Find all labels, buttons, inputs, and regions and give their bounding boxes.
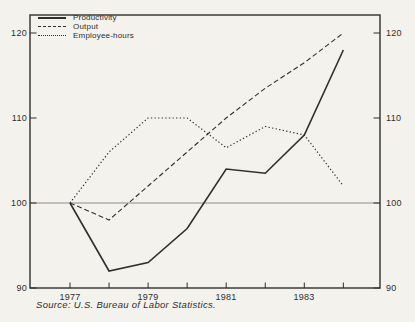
y-axis-label-left-90: 90 (4, 283, 27, 293)
dotted-line-sample-icon (38, 35, 66, 36)
legend-label-output: Output (73, 22, 98, 31)
productivity-line (70, 50, 343, 271)
y-axis-label-right-120: 120 (386, 28, 412, 38)
legend-label-productivity: Productivity (73, 13, 117, 22)
dashed-line-sample-icon (38, 26, 66, 27)
y-axis-label-right-110: 110 (386, 113, 412, 123)
source-note: Source: U.S. Bureau of Labor Statistics. (36, 299, 216, 310)
legend-item-productivity: Productivity (38, 13, 134, 22)
output-line (70, 33, 343, 220)
line-chart-canvas (0, 0, 415, 322)
legend-item-output: Output (38, 22, 134, 31)
employee-hours-line (70, 118, 343, 203)
y-axis-label-left-100: 100 (4, 198, 27, 208)
y-axis-label-right-100: 100 (386, 198, 412, 208)
y-axis-label-left-110: 110 (4, 113, 27, 123)
legend-label-employee-hours: Employee-hours (73, 31, 134, 40)
chart-legend: Productivity Output Employee-hours (38, 13, 134, 40)
x-axis-label-1983: 1983 (286, 292, 322, 302)
y-axis-label-left-120: 120 (4, 28, 27, 38)
productivity-chart-figure: 120 110 100 90 120 110 100 90 1977 1979 … (0, 0, 415, 322)
solid-line-sample-icon (38, 17, 66, 19)
y-axis-label-right-90: 90 (386, 283, 412, 293)
plot-border (30, 15, 380, 288)
legend-item-employee-hours: Employee-hours (38, 31, 134, 40)
